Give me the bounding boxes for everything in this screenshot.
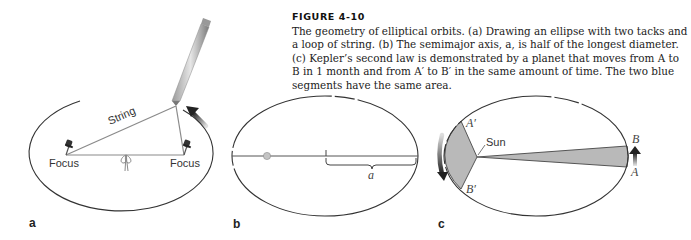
motion-arrow-up-icon xyxy=(629,146,641,166)
panel-b: a b xyxy=(232,96,418,231)
shaded-segment-a-prime-b-prime xyxy=(445,121,477,189)
sun-label: Sun xyxy=(486,136,506,148)
pencil-icon xyxy=(172,18,211,106)
panel-c: Sun A′ B′ B A c xyxy=(437,96,641,231)
point-b-prime-label: B′ xyxy=(466,182,476,196)
motion-arrow-icon xyxy=(186,106,206,126)
focus-left-label: Focus xyxy=(49,157,79,169)
panel-label-a: a xyxy=(29,216,36,230)
panel-label-b: b xyxy=(233,217,240,231)
point-a-prime-label: A′ xyxy=(465,116,476,130)
panel-label-c: c xyxy=(438,217,445,231)
focus-right-label: Focus xyxy=(170,157,200,169)
string-label: String xyxy=(106,104,137,127)
shaded-segment-a-b xyxy=(477,146,628,167)
panel-a: String Focus Focus a xyxy=(29,18,213,230)
focus-dot-icon xyxy=(263,152,270,159)
point-b-label: B xyxy=(632,132,640,146)
sun-leader-line xyxy=(478,145,485,155)
elliptical-orbits-diagram: String Focus Focus a a b Sun A′ B′ B A xyxy=(0,0,691,240)
semimajor-axis-label: a xyxy=(368,168,374,182)
point-a-label: A xyxy=(630,165,639,179)
knot-icon xyxy=(121,155,131,171)
